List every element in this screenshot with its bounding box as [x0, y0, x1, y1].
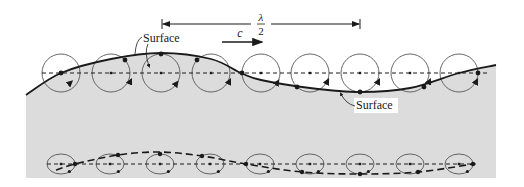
orbit-center [458, 163, 460, 165]
celerity-label: c [237, 26, 243, 40]
celerity-indicator: c [222, 26, 262, 42]
particle-dot [159, 52, 164, 57]
orbit-direction-icon [326, 81, 328, 84]
orbit-direction-icon [317, 170, 320, 173]
orbit-direction-icon [267, 170, 270, 173]
particle-dot [295, 85, 300, 90]
particle-dot [158, 152, 162, 156]
particle-dot [73, 162, 77, 166]
lambda-symbol: λ [258, 11, 264, 23]
particle-dot [300, 170, 304, 174]
particle-dot [59, 71, 64, 76]
particle-dot [422, 85, 427, 90]
particle-dot [200, 154, 204, 158]
orbit-direction-icon [68, 170, 71, 173]
particle-dot [476, 71, 481, 76]
orbit-center [110, 72, 112, 74]
water-region [26, 53, 496, 178]
orbit-center [409, 163, 411, 165]
wave-orbit-diagram: λ 2 c Surface Surface [0, 0, 524, 187]
orbit-center [359, 163, 361, 165]
surface-label-top: Surface [143, 31, 180, 45]
surface-label-bottom: Surface [356, 98, 393, 112]
orbit-direction-icon [367, 170, 370, 173]
particle-dot [471, 162, 475, 166]
orbit-direction-icon [417, 170, 420, 173]
particle-dot [195, 58, 200, 63]
particle-dot [123, 58, 128, 63]
fraction-denominator: 2 [258, 25, 264, 37]
particle-dot [358, 90, 363, 95]
particle-dot [116, 153, 120, 157]
orbit-direction-icon [167, 170, 170, 173]
particle-dot [358, 172, 362, 176]
particle-dot [244, 162, 248, 166]
orbit-direction-icon [117, 170, 120, 173]
half-wavelength-dimension: λ 2 [162, 11, 360, 37]
orbit-direction-icon [217, 170, 220, 173]
leader-line-icon [135, 37, 142, 54]
orbit-direction-icon [466, 170, 469, 173]
particle-dot [240, 71, 245, 76]
